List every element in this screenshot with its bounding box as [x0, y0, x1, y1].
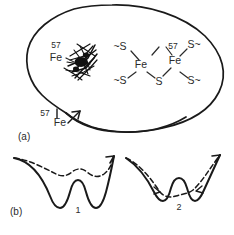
sulfur-bottom-bridge: S: [155, 75, 162, 87]
cell-membrane-outline: [27, 5, 224, 132]
panel-b-group: (b) 1: [10, 155, 220, 217]
well-2-label: 2: [176, 202, 181, 212]
panel-label-b: (b): [10, 206, 22, 217]
sulfur-bottom-right: S~: [187, 74, 200, 86]
figure-root: 57 Fe ~S: [0, 0, 234, 235]
bond-fe-s-bottomleft: [128, 72, 136, 78]
membrane-bottom-dip: [66, 113, 186, 132]
panel-a-group: 57 Fe ~S: [18, 5, 223, 142]
well-2-solid-curve: [126, 155, 220, 201]
isotope-number-ironsulfur: 57: [168, 41, 178, 51]
element-symbol-cluster: Fe: [50, 51, 62, 63]
iron-atom-right: Fe: [169, 54, 181, 66]
potential-well-2: 2: [126, 155, 220, 212]
dark-iron-cluster-scribble: [64, 44, 97, 80]
isotope-number-membrane: 57: [40, 108, 50, 118]
well-2-dashed-curve: [126, 155, 220, 197]
well-1-dashed-curve: [14, 156, 114, 176]
well-1-solid-curve: [14, 156, 114, 208]
iron-atom-left: Fe: [135, 58, 147, 70]
sulfur-bottom-left: ~S: [113, 74, 126, 86]
bond-s-fe-bridge-right: [163, 68, 171, 76]
potential-well-1: 1: [14, 156, 114, 215]
figure-canvas: 57 Fe ~S: [0, 0, 234, 235]
well-2-arrow-head-right: [212, 155, 220, 162]
bond-open-left: [152, 47, 159, 55]
iron-sulfur-cluster-formula: ~S S~ 57 Fe Fe ~S S S~: [113, 38, 200, 87]
sulfur-top-right: S~: [187, 38, 200, 50]
element-symbol-membrane: Fe: [54, 116, 66, 128]
panel-label-a: (a): [18, 131, 30, 142]
sulfur-top-left: ~S: [113, 40, 126, 52]
well-1-label: 1: [75, 205, 80, 215]
bond-fe-s-bridge-left: [147, 72, 155, 78]
isotope-number-cluster: 57: [51, 40, 61, 50]
